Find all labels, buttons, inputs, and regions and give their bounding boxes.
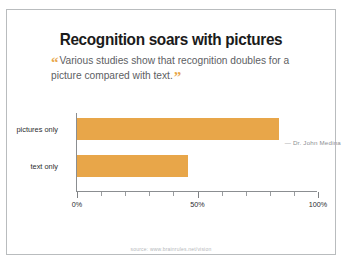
slide-frame: Recognition soars with pictures “Various… <box>6 9 336 255</box>
x-tick-minor <box>222 192 223 196</box>
x-tick-minor <box>101 192 102 196</box>
category-label-text-only: text only <box>30 162 58 171</box>
x-tick-major <box>318 192 319 198</box>
x-tick-label: 50% <box>190 200 204 209</box>
bar-text-only <box>77 155 188 177</box>
x-tick-major <box>77 192 78 198</box>
x-tick-minor <box>125 192 126 196</box>
bar-fill <box>77 155 188 177</box>
x-axis-line <box>76 191 317 192</box>
x-tick-minor <box>149 192 150 196</box>
chart-source: source: www.brainrules.net/vision <box>7 246 335 252</box>
bar-chart: pictures only text only 0%50%100% <box>7 10 335 254</box>
bar-pictures-only <box>77 118 279 140</box>
category-label-pictures-only: pictures only <box>17 125 59 134</box>
x-tick-minor <box>246 192 247 196</box>
x-tick-label: 0% <box>72 200 82 209</box>
bar-fill <box>77 118 279 140</box>
x-tick-minor <box>294 192 295 196</box>
x-tick-minor <box>270 192 271 196</box>
x-tick-label: 100% <box>309 200 327 209</box>
x-tick-major <box>198 192 199 198</box>
x-tick-minor <box>173 192 174 196</box>
